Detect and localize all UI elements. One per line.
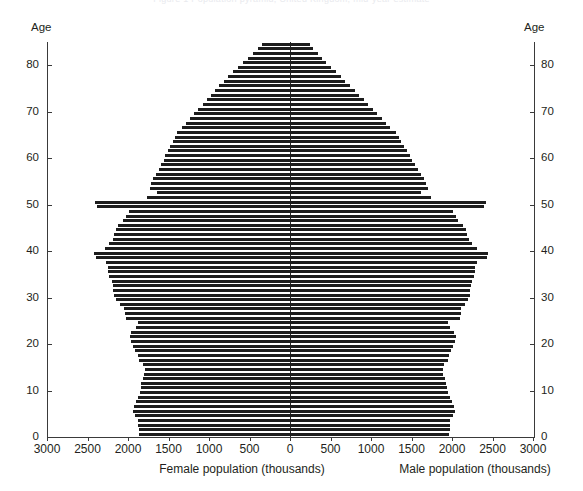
bar-female-age-16	[139, 359, 290, 362]
bar-male-age-11	[290, 382, 446, 385]
bar-male-age-51	[290, 196, 431, 199]
bar-female-age-20	[131, 340, 290, 343]
bar-male-age-59	[290, 159, 412, 162]
bar-female-age-78	[233, 70, 290, 73]
bar-female-age-29	[116, 298, 290, 301]
bar-male-age-48	[290, 210, 453, 213]
bar-male-age-2	[290, 424, 450, 427]
x-tick--500	[250, 437, 251, 441]
x-tick--2000	[128, 437, 129, 441]
bar-female-age-8	[138, 396, 290, 399]
bar-female-age-53	[150, 187, 290, 190]
bar-female-age-38	[96, 256, 290, 259]
bar-female-age-14	[145, 368, 290, 371]
bar-female-age-42	[113, 238, 290, 241]
x-axis-line	[47, 437, 535, 438]
bar-male-age-27	[290, 307, 461, 310]
bar-male-age-8	[290, 396, 450, 399]
y-axis-left-line	[47, 42, 48, 438]
bar-female-age-28	[120, 303, 290, 306]
bar-male-age-58	[290, 163, 415, 166]
bar-male-age-18	[290, 349, 451, 352]
bar-female-age-1	[139, 428, 290, 431]
bar-male-age-19	[290, 345, 453, 348]
bar-female-age-15	[143, 363, 290, 366]
x-tick--3000	[47, 437, 48, 441]
bar-male-age-72	[290, 98, 364, 101]
bar-female-age-19	[133, 345, 290, 348]
bar-female-age-61	[168, 149, 290, 152]
bar-male-age-14	[290, 368, 443, 371]
bar-male-age-28	[290, 303, 465, 306]
y-tick-right-30	[530, 298, 534, 299]
y-axis-label-right-0: 0	[541, 431, 575, 442]
bar-female-age-60	[165, 154, 290, 157]
bar-male-age-74	[290, 89, 355, 92]
age-axis-title-left: Age	[31, 21, 51, 33]
bar-male-age-49	[290, 205, 484, 208]
y-tick-right-10	[530, 391, 534, 392]
bar-female-age-74	[215, 89, 290, 92]
bar-male-age-40	[290, 247, 477, 250]
bar-male-age-1	[290, 428, 450, 431]
bar-female-age-48	[129, 210, 290, 213]
bar-female-age-2	[138, 424, 290, 427]
y-tick-left-40	[48, 251, 52, 252]
bar-male-age-73	[290, 94, 359, 97]
y-axis-label-left-30: 30	[5, 292, 39, 303]
bar-female-age-55	[153, 177, 290, 180]
y-axis-label-left-60: 60	[5, 152, 39, 163]
bar-female-age-49	[97, 205, 290, 208]
bar-female-age-12	[143, 377, 290, 380]
x-tick-3000	[533, 437, 534, 441]
bar-male-age-12	[290, 377, 445, 380]
bar-female-age-45	[118, 224, 290, 227]
bar-male-age-35	[290, 270, 475, 273]
bar-male-age-23	[290, 326, 450, 329]
bar-female-age-37	[106, 261, 290, 264]
bar-female-age-84	[262, 43, 290, 46]
bar-male-age-67	[290, 122, 386, 125]
bar-male-age-75	[290, 84, 350, 87]
bar-female-age-66	[182, 126, 290, 129]
bar-male-age-53	[290, 187, 428, 190]
bar-female-age-3	[138, 419, 290, 422]
bar-female-age-39	[94, 252, 290, 255]
bar-male-age-26	[290, 312, 461, 315]
bar-female-age-51	[147, 196, 290, 199]
y-axis-label-left-50: 50	[5, 199, 39, 210]
bar-male-age-42	[290, 238, 469, 241]
y-axis-label-left-70: 70	[5, 106, 39, 117]
bar-male-age-78	[290, 70, 336, 73]
bar-male-age-37	[290, 261, 477, 264]
bar-female-age-30	[114, 294, 290, 297]
bar-female-age-5	[133, 410, 290, 413]
bar-male-age-20	[290, 340, 455, 343]
bar-female-age-24	[138, 321, 290, 324]
y-tick-left-0	[48, 437, 52, 438]
age-axis-title-right: Age	[524, 21, 544, 33]
y-tick-left-10	[48, 391, 52, 392]
bar-male-age-47	[290, 215, 456, 218]
bar-male-age-15	[290, 363, 444, 366]
bar-male-age-82	[290, 52, 318, 55]
bar-female-age-4	[135, 414, 290, 417]
bar-female-age-71	[203, 103, 290, 106]
y-axis-label-left-40: 40	[5, 245, 39, 256]
bar-male-age-55	[290, 177, 424, 180]
bar-male-age-81	[290, 57, 322, 60]
bar-male-age-61	[290, 149, 407, 152]
bar-female-age-52	[157, 191, 290, 194]
bar-male-age-34	[290, 275, 474, 278]
y-axis-label-right-50: 50	[541, 199, 575, 210]
bar-male-age-10	[290, 386, 447, 389]
bar-male-age-25	[290, 317, 460, 320]
x-tick-0	[290, 437, 291, 441]
bar-female-age-80	[243, 61, 290, 64]
bar-male-age-39	[290, 252, 488, 255]
bar-female-age-76	[224, 80, 290, 83]
bar-male-age-7	[290, 400, 452, 403]
bar-female-age-47	[126, 215, 290, 218]
bar-male-age-0	[290, 433, 449, 436]
bar-female-age-56	[156, 173, 290, 176]
